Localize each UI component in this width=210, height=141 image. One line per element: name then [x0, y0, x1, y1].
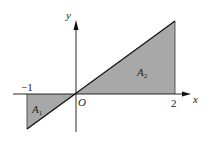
tick-label-neg-one: −1 [21, 81, 33, 93]
region-a1-subscript: 1 [39, 109, 43, 117]
x-axis-label: x [192, 93, 198, 105]
y-axis-label: y [65, 9, 71, 21]
region-a2-subscript: 2 [144, 72, 148, 80]
y-axis-arrow-icon [74, 20, 79, 30]
x-axis-arrow-icon [182, 92, 191, 97]
origin-label: O [78, 96, 86, 108]
area-diagram: y x O −1 2 A1 A2 [0, 0, 210, 141]
tick-label-two: 2 [171, 97, 177, 109]
